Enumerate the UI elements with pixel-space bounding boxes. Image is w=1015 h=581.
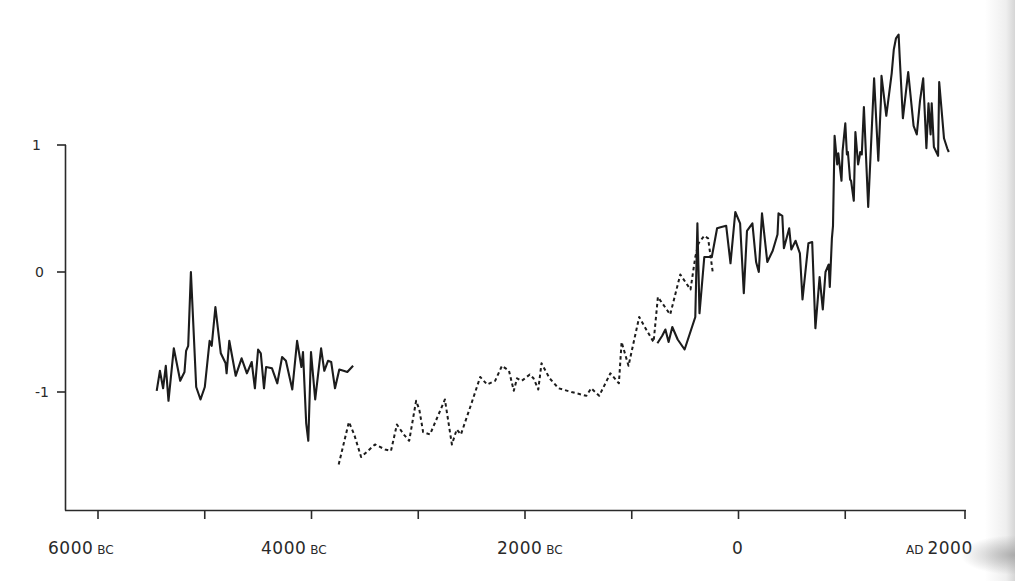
- series-layer: [157, 35, 949, 465]
- y-tick-label-0: 0: [35, 264, 44, 280]
- x-axis: 6000BC 4000BC 2000BC 0 AD2000: [48, 510, 973, 558]
- x-tick-label-ad2000: AD2000: [906, 538, 973, 558]
- y-tick-label-1: 1: [32, 137, 41, 153]
- x-ticks: [98, 510, 965, 519]
- y-axis: 1 0 -1: [32, 137, 66, 511]
- series-1-early-solid-line: [157, 272, 353, 441]
- y-tick-label-minus1: -1: [35, 384, 49, 400]
- x-tick-label-6000bc: 6000BC: [48, 538, 114, 558]
- x-tick-label-2000bc: 2000BC: [497, 538, 563, 558]
- series-2-dashed-line: [339, 236, 713, 465]
- chart: 1 0 -1 6000BC 4000BC 2000BC 0 AD2000: [0, 0, 1015, 581]
- x-tick-label-4000bc: 4000BC: [261, 538, 327, 558]
- series-3-recent-solid-line: [657, 35, 948, 350]
- x-tick-label-0: 0: [732, 538, 743, 558]
